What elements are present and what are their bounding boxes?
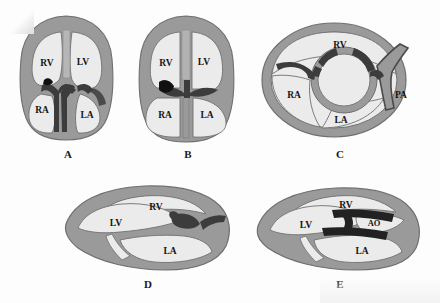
panel-b-label-lv: LV xyxy=(198,57,210,67)
panel-d: RV LV LA xyxy=(58,182,238,274)
panel-c-label-rv: RV xyxy=(333,40,347,50)
panel-c-label-pa: PA xyxy=(395,90,407,100)
panel-b-label-la: LA xyxy=(200,110,213,120)
panel-a-label-lv: LV xyxy=(77,57,89,67)
panel-c-label-ra: RA xyxy=(287,90,301,100)
panel-e: RV LV LA AO xyxy=(250,182,430,274)
panel-d-label-lv: LV xyxy=(110,218,122,228)
panel-d-letter: D xyxy=(138,278,158,290)
panel-e-letter: E xyxy=(330,278,350,290)
cardiac-anatomy-figure: RV LV RA LA A RV LV RA xyxy=(0,0,440,303)
panel-e-label-ao: AO xyxy=(368,218,381,228)
panel-a-label-ra: RA xyxy=(35,105,49,115)
panel-e-label-lv: LV xyxy=(300,220,312,230)
panel-a-interventricular-septum xyxy=(63,30,70,78)
panel-c-label-la: LA xyxy=(334,115,347,125)
panel-a-label-la: LA xyxy=(80,110,93,120)
panel-b-label-rv: RV xyxy=(159,58,173,68)
panel-d-label-la: LA xyxy=(163,246,176,256)
panel-a-letter: A xyxy=(58,148,78,160)
panel-d-label-rv: RV xyxy=(149,202,163,212)
panel-b: RV LV RA LA xyxy=(132,14,244,144)
panel-b-interatrial-septum xyxy=(183,96,189,138)
panel-b-letter: B xyxy=(178,148,198,160)
panel-e-label-la: LA xyxy=(355,246,368,256)
panel-a: RV LV RA LA xyxy=(14,14,124,142)
panel-c: RV RA LA PA xyxy=(258,18,430,144)
panel-c-letter: C xyxy=(330,148,350,160)
panel-b-label-ra: RA xyxy=(158,110,172,120)
panel-b-interventricular-septum xyxy=(182,30,190,80)
panel-a-label-rv: RV xyxy=(40,58,54,68)
panel-e-label-rv: RV xyxy=(339,200,353,210)
